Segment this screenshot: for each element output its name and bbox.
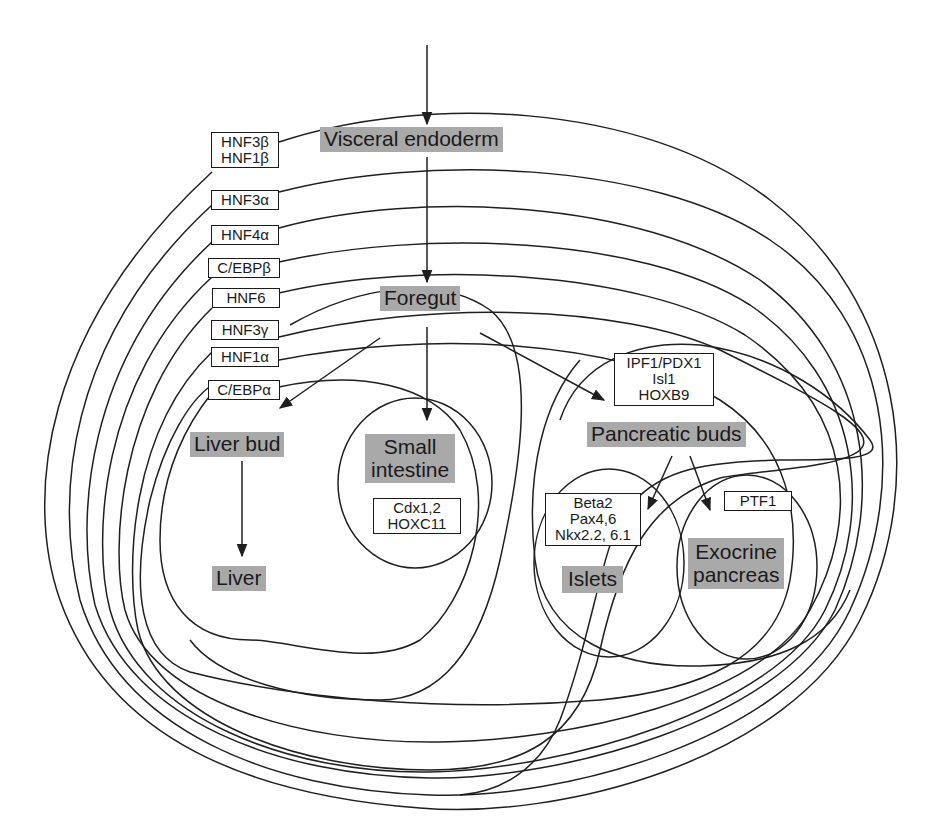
domain-curve-hnf3a <box>69 170 882 795</box>
stage-liver: Liver <box>212 566 266 591</box>
tf-nkx: Nkx2.2, 6.1 <box>549 527 637 543</box>
stage-liver-bud: Liver bud <box>190 432 284 457</box>
tf-box-hnf3g: HNF3γ <box>211 320 279 340</box>
tf-pax46: Pax4,6 <box>549 511 637 527</box>
stage-pancreatic-buds: Pancreatic buds <box>587 422 746 447</box>
tf-box-hnf1a: HNF1α <box>211 347 279 367</box>
tf-hoxb9: HOXB9 <box>618 387 710 403</box>
tf-isl1: Isl1 <box>618 371 710 387</box>
stage-exocrine-line1: Exocrine <box>693 541 779 564</box>
tf-box-islets: Beta2 Pax4,6 Nkx2.2, 6.1 <box>545 493 641 546</box>
stage-foregut: Foregut <box>380 286 460 311</box>
tf-box-hnf6: HNF6 <box>212 288 280 308</box>
tf-hnf1b: HNF1β <box>215 150 275 166</box>
foregut-to-pancreatic-arrow <box>480 333 604 400</box>
endoderm-lineage-diagram <box>0 0 934 835</box>
tf-hnf3b: HNF3β <box>215 134 275 150</box>
stage-visceral-endoderm: Visceral endoderm <box>320 127 503 152</box>
tf-box-intestine: Cdx1,2 HOXC11 <box>373 498 461 534</box>
tf-box-hnf4a: HNF4α <box>211 225 279 245</box>
pancreatic-to-islets-arrow <box>648 456 672 509</box>
tf-ipf1-pdx1: IPF1/PDX1 <box>618 355 710 371</box>
foregut-to-liverbud-arrow <box>280 338 380 408</box>
stage-exocrine-pancreas: Exocrine pancreas <box>688 538 784 589</box>
stage-small-intestine: Small intestine <box>365 434 455 483</box>
tf-box-hnf3b-hnf1b: HNF3β HNF1β <box>211 132 279 168</box>
stage-islets: Islets <box>562 566 623 593</box>
tf-beta2: Beta2 <box>549 495 637 511</box>
stage-exocrine-line2: pancreas <box>693 564 779 587</box>
tf-box-cebpb: C/EBPβ <box>208 258 280 278</box>
tf-box-ptf1: PTF1 <box>724 491 792 511</box>
tf-box-hnf3a: HNF3α <box>211 190 279 210</box>
stage-small-intestine-line1: Small <box>371 436 449 459</box>
tf-hoxc11: HOXC11 <box>377 516 457 532</box>
tf-cdx12: Cdx1,2 <box>377 500 457 516</box>
stage-small-intestine-line2: intestine <box>371 459 449 482</box>
tf-box-cebpa: C/EBPα <box>208 380 280 400</box>
tf-box-pancreatic-buds: IPF1/PDX1 Isl1 HOXB9 <box>614 353 714 406</box>
